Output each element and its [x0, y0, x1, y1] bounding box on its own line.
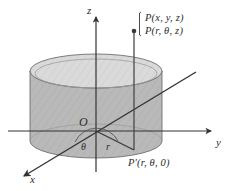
- point-p-prime-label: P′(r, θ, 0): [128, 158, 170, 169]
- radius-r-label: r: [106, 142, 110, 152]
- angle-theta-label: θ: [81, 142, 86, 152]
- point-p-cylindrical-label: P(r, θ, z): [145, 26, 183, 37]
- z-axis-label: z: [87, 5, 91, 16]
- point-p-cartesian-label: P(x, y, z): [145, 13, 184, 24]
- label-brace: [140, 12, 142, 36]
- point-P-marker: [132, 29, 137, 34]
- y-axis-label: y: [216, 137, 221, 148]
- cylindrical-coordinates-figure: z y x O θ r P(x, y, z) P(r, θ, z) P′(r, …: [0, 0, 234, 191]
- origin-label: O: [79, 116, 88, 128]
- figure-canvas: [0, 0, 234, 191]
- x-axis-label: x: [30, 174, 35, 185]
